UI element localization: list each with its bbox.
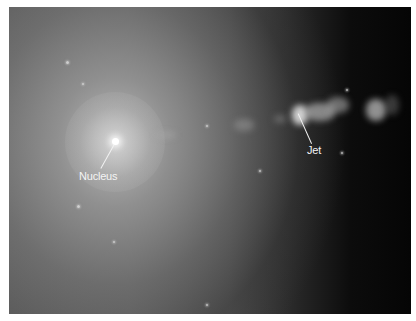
star [259, 170, 261, 172]
star [346, 89, 348, 91]
star [77, 205, 80, 208]
jet-label: Jet [307, 144, 321, 156]
jet-knot [274, 115, 286, 123]
star [341, 152, 343, 154]
star [206, 304, 208, 306]
jet-knot [234, 119, 254, 131]
jet-knot [385, 95, 399, 115]
galaxy-photo [9, 7, 411, 314]
jet-knot [327, 97, 349, 113]
star [82, 83, 84, 85]
jet-knot [366, 99, 386, 121]
star [206, 125, 208, 127]
star [66, 61, 69, 64]
jet-knot [156, 132, 176, 138]
nucleus-label: Nucleus [79, 170, 117, 182]
star [113, 241, 115, 243]
